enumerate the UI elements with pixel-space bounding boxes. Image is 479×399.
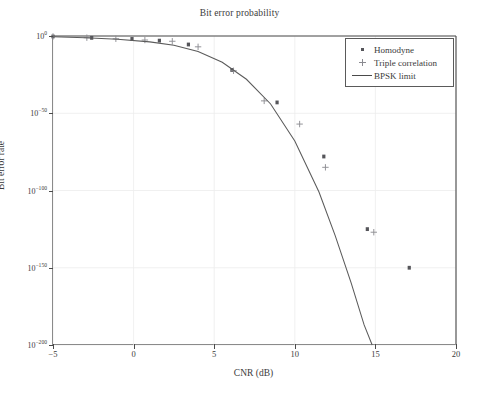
x-tick-label: −5 bbox=[48, 349, 57, 359]
data-point-triple-correlation bbox=[371, 229, 377, 235]
chart-legend: Homodyne Triple correlation BPSK limit bbox=[345, 38, 454, 87]
data-point-triple-correlation bbox=[296, 121, 302, 127]
bpsk-limit-curve bbox=[53, 37, 372, 345]
x-tick-label: 10 bbox=[291, 349, 300, 359]
legend-label: Triple correlation bbox=[374, 58, 437, 68]
line-marker-icon bbox=[350, 69, 374, 82]
x-tick-label: 20 bbox=[452, 349, 461, 359]
x-tick-mark bbox=[214, 344, 215, 349]
x-axis-label: CNR (dB) bbox=[52, 368, 455, 378]
legend-item-bpsk-limit: BPSK limit bbox=[350, 69, 448, 82]
data-point-triple-correlation bbox=[261, 98, 267, 104]
x-tick-label: 15 bbox=[371, 349, 380, 359]
legend-item-triple-correlation: Triple correlation bbox=[350, 56, 448, 69]
legend-label: BPSK limit bbox=[374, 71, 416, 81]
y-tick-label: 10−150 bbox=[27, 263, 47, 272]
data-point-triple-correlation bbox=[195, 44, 201, 50]
data-point-homodyne bbox=[158, 39, 161, 43]
data-point-homodyne bbox=[322, 155, 325, 159]
y-tick-mark bbox=[49, 36, 54, 37]
x-tick-mark bbox=[375, 344, 376, 349]
y-axis-label: Bit error rate bbox=[0, 141, 6, 190]
data-point-homodyne bbox=[366, 227, 369, 231]
data-point-homodyne bbox=[408, 266, 411, 270]
data-point-triple-correlation bbox=[142, 37, 148, 43]
data-point-triple-correlation bbox=[322, 164, 328, 170]
plus-marker-icon bbox=[350, 56, 374, 69]
data-point-triple-correlation bbox=[169, 38, 175, 44]
y-tick-mark bbox=[49, 113, 54, 114]
y-tick-mark bbox=[49, 191, 54, 192]
y-tick-label: 10−50 bbox=[30, 109, 47, 118]
y-tick-label: 10−100 bbox=[27, 186, 47, 195]
y-tick-label: 100 bbox=[36, 32, 47, 41]
x-tick-mark bbox=[456, 344, 457, 349]
legend-item-homodyne: Homodyne bbox=[350, 43, 448, 56]
x-tick-label: 5 bbox=[212, 349, 216, 359]
chart-title: Bit error probability bbox=[0, 8, 479, 18]
data-point-homodyne bbox=[275, 101, 278, 105]
x-tick-mark bbox=[134, 344, 135, 349]
y-tick-label: 10−200 bbox=[27, 341, 47, 350]
data-point-homodyne bbox=[187, 43, 190, 47]
x-tick-mark bbox=[53, 344, 54, 349]
square-marker-icon bbox=[350, 43, 374, 56]
legend-label: Homodyne bbox=[374, 45, 414, 55]
chart-figure: Bit error probability Bit error rate 100… bbox=[0, 0, 479, 399]
y-tick-mark bbox=[49, 268, 54, 269]
x-tick-mark bbox=[295, 344, 296, 349]
x-tick-label: 0 bbox=[131, 349, 135, 359]
